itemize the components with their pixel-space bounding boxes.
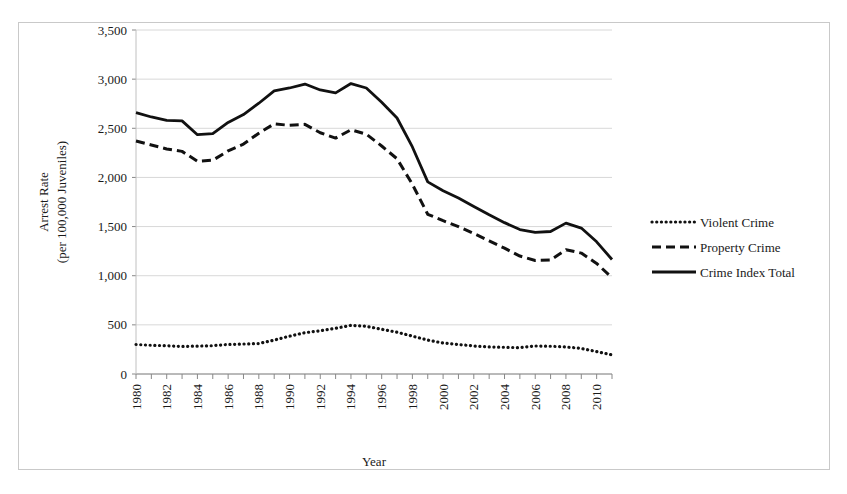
x-tick-label: 1990 [282, 384, 297, 410]
x-tick-label: 1994 [343, 384, 358, 411]
y-tick-label: 2,500 [98, 121, 127, 136]
x-tick-label: 1982 [159, 384, 174, 410]
y-axis-title-line-1: Arrest Rate [36, 172, 51, 232]
x-axis-tick-labels: 1980198219841986198819901992199419961998… [129, 383, 605, 410]
series-line-violent-crime [136, 325, 612, 354]
series-line-crime-index-total [136, 84, 612, 260]
y-tick-label: 3,500 [98, 23, 127, 38]
y-axis-ticks [132, 30, 136, 374]
y-tick-label: 0 [121, 367, 128, 382]
y-tick-label: 1,500 [98, 219, 127, 234]
series-line-property-crime [136, 124, 612, 278]
y-axis-tick-labels: 05001,0001,5002,0002,5003,0003,500 [98, 23, 127, 382]
x-tick-label: 1980 [129, 384, 144, 410]
x-tick-label: 1992 [313, 384, 328, 410]
x-tick-label: 2008 [558, 384, 573, 410]
y-tick-label: 500 [108, 317, 128, 332]
line-chart: 05001,0001,5002,0002,5003,0003,500 19801… [0, 0, 847, 494]
legend-label: Violent Crime [700, 215, 774, 230]
x-tick-label: 2002 [466, 384, 481, 410]
chart-legend: Violent CrimeProperty CrimeCrime Index T… [652, 215, 795, 280]
x-tick-label: 2010 [589, 384, 604, 410]
x-tick-label: 1988 [251, 384, 266, 410]
x-axis-ticks [136, 374, 612, 379]
x-axis-title: Year [362, 454, 387, 469]
x-tick-label: 2004 [497, 383, 512, 410]
gridlines [136, 30, 612, 374]
x-tick-label: 2000 [436, 384, 451, 410]
data-series-group [136, 84, 612, 355]
y-axis-title-line-2: (per 100,000 Juveniles) [54, 141, 69, 263]
x-tick-label: 2006 [528, 384, 543, 411]
x-tick-label: 1996 [374, 384, 389, 411]
legend-label: Crime Index Total [700, 265, 795, 280]
y-tick-label: 2,000 [98, 170, 127, 185]
x-tick-label: 1984 [190, 384, 205, 411]
y-tick-label: 3,000 [98, 72, 127, 87]
x-tick-label: 1998 [405, 384, 420, 410]
legend-label: Property Crime [700, 240, 781, 255]
y-tick-label: 1,000 [98, 268, 127, 283]
x-tick-label: 1986 [221, 384, 236, 411]
